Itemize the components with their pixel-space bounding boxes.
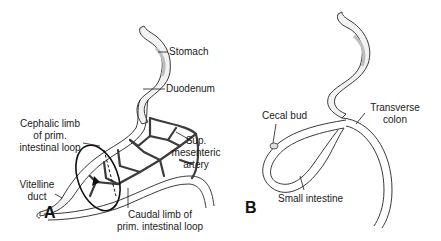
label-sma-line2: mesenteric xyxy=(168,147,224,159)
label-cephalic-limb-line2: of prim. xyxy=(14,130,86,142)
label-stomach: Stomach xyxy=(169,46,208,58)
label-vitelline-line2: duct xyxy=(14,191,60,203)
label-sma-line1: Sup. xyxy=(168,135,224,147)
label-vitelline-line1: Vitelline xyxy=(14,179,60,191)
label-sup-mesenteric-artery: Sup. mesenteric artery xyxy=(168,135,224,171)
label-transverse-line2: colon xyxy=(366,114,424,126)
label-duodenum: Duodenum xyxy=(166,83,215,95)
panel-letter-a: A xyxy=(44,205,56,221)
label-cephalic-limb: Cephalic limb of prim. intestinal loop xyxy=(14,118,86,154)
label-vitelline-duct: Vitelline duct xyxy=(14,179,60,203)
label-cephalic-limb-line1: Cephalic limb xyxy=(14,118,86,130)
panel-letter-b: B xyxy=(245,200,257,216)
label-caudal-line2: prim. intestinal loop xyxy=(110,221,210,233)
label-cecal-bud: Cecal bud xyxy=(262,110,307,122)
label-small-intestine: Small intestine xyxy=(278,193,343,205)
label-cephalic-limb-line3: intestinal loop xyxy=(14,142,86,154)
embryology-figure: Stomach Duodenum Cephalic limb of prim. … xyxy=(0,0,441,241)
label-caudal-limb: Caudal limb of prim. intestinal loop xyxy=(110,209,210,233)
label-transverse-line1: Transverse xyxy=(366,102,424,114)
label-transverse-colon: Transverse colon xyxy=(366,102,424,126)
label-sma-line3: artery xyxy=(168,159,224,171)
label-caudal-line1: Caudal limb of xyxy=(110,209,210,221)
